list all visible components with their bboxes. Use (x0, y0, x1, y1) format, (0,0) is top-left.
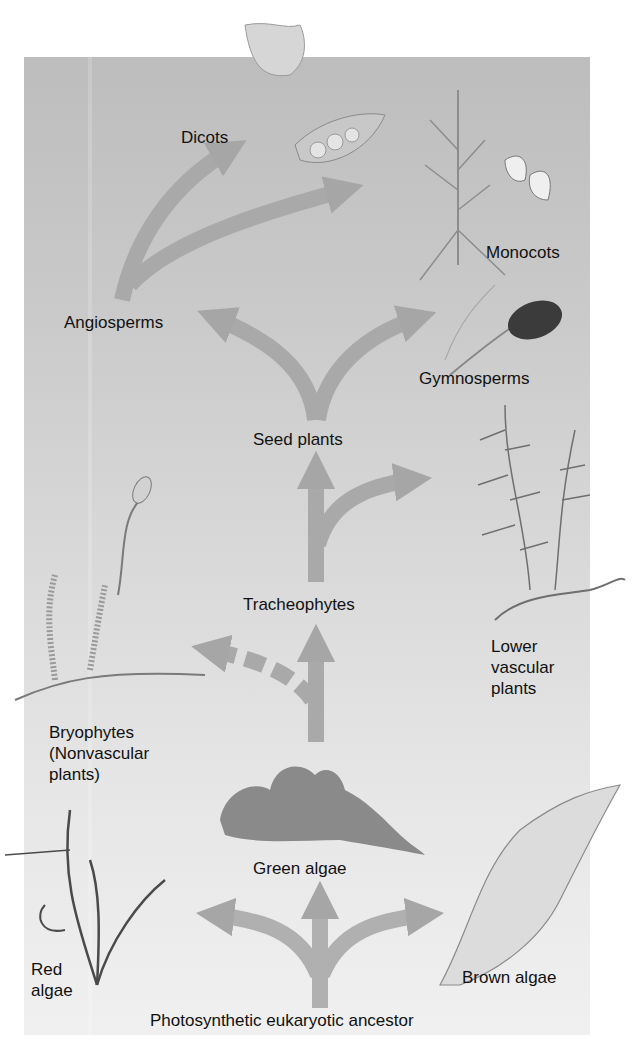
label-line: plants (491, 678, 554, 699)
label-line: (Nonvascular (49, 743, 149, 764)
label-line: Lower (491, 636, 554, 657)
arrows-tracheophyte-branch (316, 470, 413, 582)
label-line: vascular (491, 657, 554, 678)
diagram-artwork (0, 0, 633, 1044)
arrows-green-algae-branch (210, 643, 316, 742)
label-bryophytes: Bryophytes (Nonvascular plants) (49, 722, 149, 785)
arrow-to-angiosperms (215, 318, 315, 420)
arrow-to-lower-vascular (318, 480, 413, 545)
arrows-seed-branch (215, 318, 418, 420)
label-line: algae (31, 980, 73, 1001)
label-monocots: Monocots (486, 242, 560, 263)
fern-illustration (478, 405, 625, 620)
arrows-ancestor-branch (215, 900, 425, 1008)
label-red-algae: Red algae (31, 959, 73, 1001)
arrow-to-red-algae (215, 915, 318, 975)
label-angiosperms: Angiosperms (64, 312, 163, 333)
brown-algae-illustration (440, 785, 620, 985)
arrow-to-gymnosperms (318, 318, 418, 420)
label-tracheophytes: Tracheophytes (243, 594, 355, 615)
dicot-flower-illustration (245, 24, 385, 163)
moss-illustration (15, 474, 205, 700)
arrow-to-brown-algae (322, 915, 425, 975)
gymnosperm-pinecone-illustration (445, 285, 567, 375)
label-line: plants) (49, 764, 149, 785)
red-algae-illustration (5, 810, 165, 985)
arrows-angiosperm-branch (122, 150, 345, 300)
label-seed-plants: Seed plants (253, 429, 343, 450)
label-line: Red (31, 959, 73, 980)
label-ancestor: Photosynthetic eukaryotic ancestor (150, 1010, 414, 1031)
arrow-to-bryophytes-dashed (210, 650, 312, 700)
label-green-algae: Green algae (253, 858, 347, 879)
label-gymnosperms: Gymnosperms (419, 368, 530, 389)
label-dicots: Dicots (181, 127, 228, 148)
green-algae-illustration (220, 767, 425, 855)
label-brown-algae: Brown algae (462, 967, 557, 988)
label-lower-vascular-plants: Lower vascular plants (491, 636, 554, 699)
label-line: Bryophytes (49, 722, 149, 743)
